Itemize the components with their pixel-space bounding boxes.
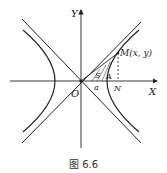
semi-axis-a-label: a [94, 83, 99, 92]
y-axis-label: Y [71, 8, 79, 19]
point-n-label: N [113, 84, 122, 93]
figure-caption: 图 6.6 [0, 156, 167, 171]
area-s-label: S [95, 71, 101, 80]
x-axis-label: X [148, 86, 157, 97]
origin-dot [79, 79, 82, 82]
point-a-label: A [105, 72, 112, 81]
point-m-dot [117, 52, 120, 55]
point-m-label: M(x, y) [119, 48, 153, 58]
origin-label: O [71, 88, 79, 99]
diagram-canvas: Y X O M(x, y) N A S a [0, 0, 167, 173]
